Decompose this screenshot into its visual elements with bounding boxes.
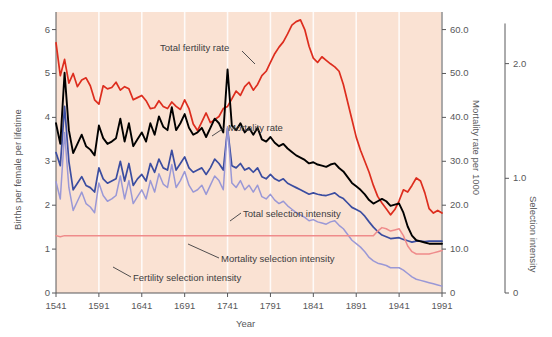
chart-figure: 0123456010.020.030.040.050.060.001.02.01… bbox=[0, 0, 552, 337]
x-tick-label: 1741 bbox=[210, 300, 246, 311]
y-tick-label-right-1: 30.0 bbox=[450, 155, 469, 166]
y-tick-label-left: 2 bbox=[0, 199, 50, 210]
y-axis-right-1-title: Mortality rate per 1000 bbox=[471, 100, 482, 195]
y-tick-label-left: 4 bbox=[0, 111, 50, 122]
y-tick-label-right-1: 20.0 bbox=[450, 199, 469, 210]
y-tick-label-right-2: 1.0 bbox=[513, 172, 526, 183]
annotation-fertility-selection-intensity: Fertility selection intensity bbox=[133, 272, 241, 283]
x-tick-label: 1591 bbox=[81, 300, 117, 311]
annotation-mortality-selection-intensity: Mortality selection intensity bbox=[221, 253, 335, 264]
x-tick-label: 1891 bbox=[338, 300, 374, 311]
annotation-total-fertility-rate: Total fertility rate bbox=[160, 42, 229, 53]
y-tick-label-right-1: 60.0 bbox=[450, 24, 469, 35]
annotation-total-selection-intensity: Total selection intensity bbox=[243, 208, 341, 219]
series-line-fertility-selection-intensity bbox=[56, 228, 442, 254]
y-tick-label-right-1: 10.0 bbox=[450, 243, 469, 254]
x-tick-label: 1841 bbox=[295, 300, 331, 311]
y-tick-label-left: 5 bbox=[0, 67, 50, 78]
x-tick-label: 1641 bbox=[124, 300, 160, 311]
y-tick-label-right-2: 2.0 bbox=[513, 58, 526, 69]
x-axis-title: Year bbox=[236, 318, 255, 329]
y-tick-label-right-1: 0 bbox=[450, 287, 455, 298]
annotation-leader-line bbox=[230, 213, 241, 221]
y-tick-label-left: 6 bbox=[0, 24, 50, 35]
x-tick-label: 1941 bbox=[381, 300, 417, 311]
y-axis-left-title: Births per female per lifetime bbox=[12, 109, 23, 230]
annotation-leader-line bbox=[113, 267, 131, 277]
y-tick-label-right-1: 40.0 bbox=[450, 111, 469, 122]
annotation-mortality-rate: Mortality rate bbox=[228, 122, 283, 133]
y-tick-label-left: 3 bbox=[0, 155, 50, 166]
y-tick-label-left: 0 bbox=[0, 287, 50, 298]
annotation-leader-line bbox=[242, 51, 255, 64]
y-tick-label-left: 1 bbox=[0, 243, 50, 254]
x-tick-label: 1541 bbox=[38, 300, 74, 311]
annotation-leader-line bbox=[188, 244, 219, 258]
y-axis-right-2-title: Selection intensity bbox=[528, 196, 539, 273]
chart-canvas bbox=[0, 0, 552, 337]
y-tick-label-right-1: 50.0 bbox=[450, 67, 469, 78]
x-tick-label: 1691 bbox=[167, 300, 203, 311]
x-tick-label: 1791 bbox=[252, 300, 288, 311]
x-tick-label: 1991 bbox=[424, 300, 460, 311]
y-tick-label-right-2: 0 bbox=[513, 287, 518, 298]
